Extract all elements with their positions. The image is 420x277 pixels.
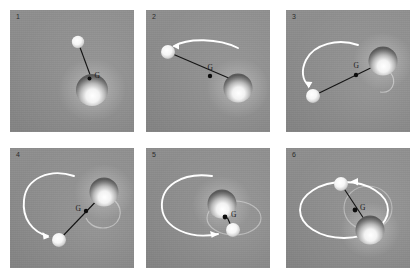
panel-number: 1 <box>16 13 20 20</box>
barycenter-label: G <box>354 61 360 70</box>
panel-4: G 4 <box>10 148 134 268</box>
barycenter-label: G <box>95 71 101 80</box>
trail-arrowhead-icon <box>351 178 359 185</box>
panel-5-scene: G <box>146 148 270 268</box>
small-sphere <box>226 223 240 237</box>
trail-arrowhead-icon <box>305 82 312 89</box>
panel-number: 3 <box>292 13 296 20</box>
panel-1-scene: G <box>10 10 134 132</box>
panel-number: 2 <box>152 13 156 20</box>
panel-3-scene: G <box>286 10 410 132</box>
large-sphere <box>369 47 398 76</box>
barycenter-dot <box>88 77 92 81</box>
panel-number: 5 <box>152 151 156 158</box>
large-sphere <box>356 216 385 245</box>
barycenter-label: G <box>231 210 237 219</box>
small-sphere <box>52 233 66 247</box>
panel-1: G 1 <box>10 10 134 132</box>
large-sphere <box>76 74 108 106</box>
small-sphere <box>72 36 84 48</box>
panel-number: 6 <box>292 151 296 158</box>
barycenter-dot <box>84 209 88 213</box>
panel-4-scene: G <box>10 148 134 268</box>
panel-5: G 5 <box>146 148 270 268</box>
two-body-orbit-figure: G 1 <box>0 0 420 277</box>
small-sphere <box>161 45 175 59</box>
panel-6: G 6 <box>286 148 410 268</box>
small-sphere-trail <box>174 40 238 48</box>
barycenter-dot <box>354 73 358 77</box>
barycenter-dot <box>223 215 228 220</box>
small-sphere-trail <box>24 173 74 236</box>
panel-3: G 3 <box>286 10 410 132</box>
panel-2-scene: G <box>146 10 270 132</box>
barycenter-label: G <box>208 63 214 72</box>
barycenter-label: G <box>76 204 82 213</box>
barycenter-dot <box>353 208 358 213</box>
panel-number: 4 <box>16 151 20 158</box>
barycenter-label: G <box>360 203 366 212</box>
small-sphere-trail <box>303 42 358 86</box>
barycenter-dot <box>208 74 212 78</box>
large-sphere <box>224 74 253 103</box>
large-sphere <box>90 178 119 207</box>
small-sphere <box>306 89 320 103</box>
panel-2: G 2 <box>146 10 270 132</box>
panel-6-scene: G <box>286 148 410 268</box>
small-sphere <box>334 177 348 191</box>
